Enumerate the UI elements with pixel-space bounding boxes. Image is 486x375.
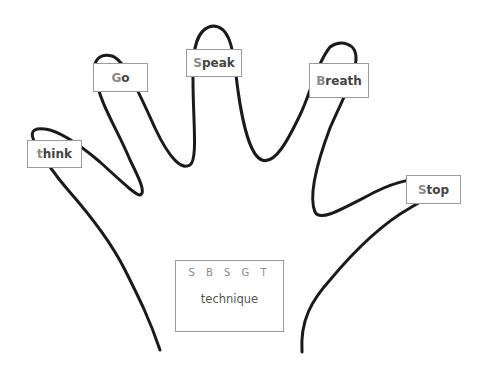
label-first-letter: S bbox=[193, 56, 202, 70]
finger-label-breath: Breath bbox=[309, 63, 369, 98]
finger-label-speak: Speak bbox=[186, 49, 242, 77]
label-rest: o bbox=[121, 71, 129, 85]
label-rest: top bbox=[427, 183, 450, 197]
label-first-letter: G bbox=[111, 71, 121, 85]
finger-label-stop: Stop bbox=[406, 175, 461, 204]
label-rest: reath bbox=[325, 74, 361, 88]
hand-diagram: think Go Speak Breath Stop S B S G T tec… bbox=[0, 0, 486, 375]
finger-label-think: think bbox=[27, 140, 82, 168]
technique-acronym: S B S G T bbox=[176, 267, 283, 278]
label-first-letter: B bbox=[316, 74, 325, 88]
label-rest: peak bbox=[202, 56, 235, 70]
technique-title-box: S B S G T technique bbox=[175, 260, 284, 332]
label-rest: hink bbox=[43, 147, 72, 161]
finger-label-go: Go bbox=[93, 63, 148, 92]
technique-subtitle: technique bbox=[176, 292, 283, 306]
label-first-letter: S bbox=[418, 183, 427, 197]
